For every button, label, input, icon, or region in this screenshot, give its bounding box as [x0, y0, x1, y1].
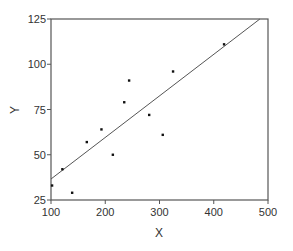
data-point [148, 114, 150, 116]
x-tick-label: 500 [259, 206, 277, 218]
scatter-chart: 100200300400500 255075100125 X Y [0, 0, 293, 251]
data-point [61, 168, 63, 170]
data-point [123, 101, 125, 103]
data-point [71, 192, 73, 194]
regression-line [51, 19, 260, 179]
y-tick-label: 50 [34, 149, 46, 161]
data-point [86, 141, 88, 143]
y-tick-label: 25 [34, 194, 46, 206]
x-axis-ticks: 100200300400500 [42, 200, 277, 218]
data-point [223, 43, 225, 45]
data-point [100, 128, 102, 130]
x-tick-label: 400 [205, 206, 223, 218]
y-axis-title: Y [8, 106, 22, 114]
data-point [112, 154, 114, 156]
y-axis-ticks: 255075100125 [28, 13, 51, 206]
plot-frame [51, 19, 268, 200]
data-point [162, 134, 164, 136]
data-point [51, 184, 53, 186]
data-point [172, 70, 174, 72]
data-point [128, 79, 130, 81]
x-tick-label: 100 [42, 206, 60, 218]
y-tick-label: 125 [28, 13, 46, 25]
x-axis-title: X [155, 226, 163, 240]
y-tick-label: 75 [34, 104, 46, 116]
fit-line [51, 19, 260, 179]
plot-border [51, 19, 268, 200]
y-tick-label: 100 [28, 58, 46, 70]
x-tick-label: 300 [150, 206, 168, 218]
x-tick-label: 200 [96, 206, 114, 218]
